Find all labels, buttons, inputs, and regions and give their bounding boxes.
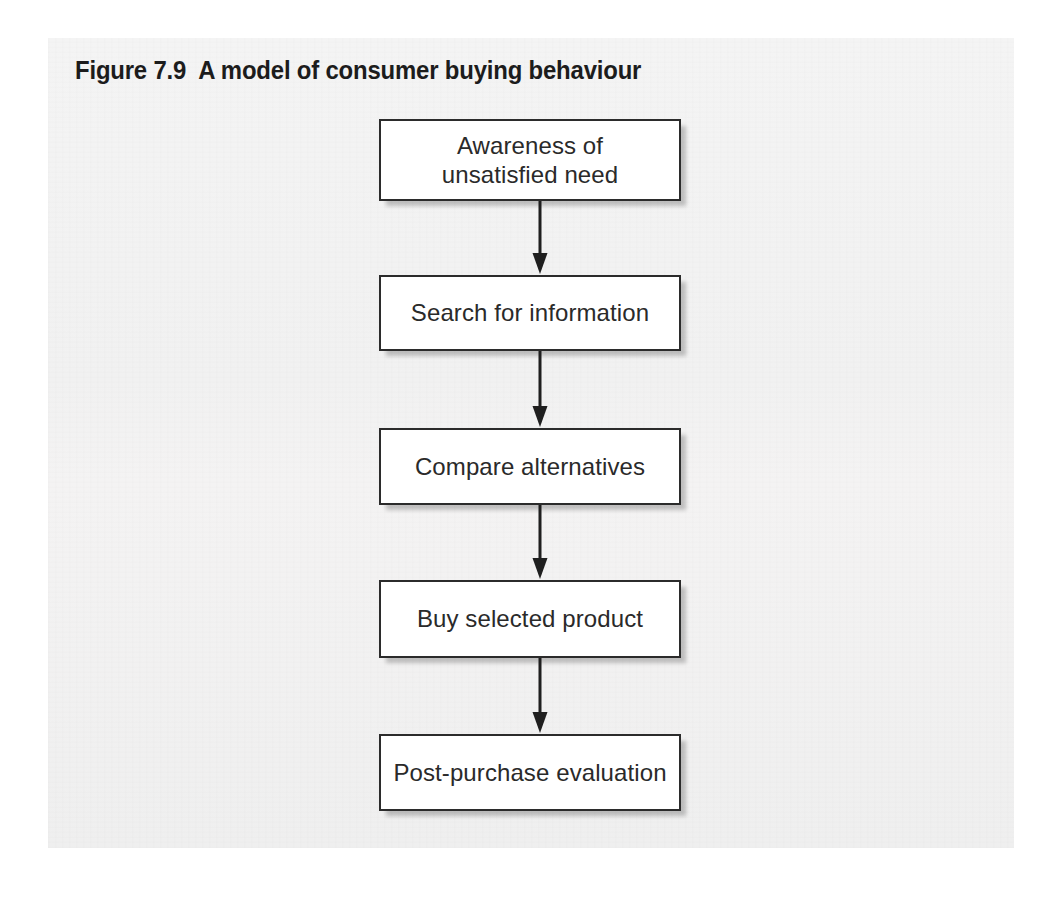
flow-node-compare[interactable]: Compare alternatives <box>379 428 681 505</box>
flow-node-buy[interactable]: Buy selected product <box>379 580 681 658</box>
flow-arrow-search-to-compare <box>526 351 554 428</box>
flow-node-label: Compare alternatives <box>407 452 653 481</box>
flow-node-label: Buy selected product <box>409 604 651 633</box>
flow-node-awareness[interactable]: Awareness of unsatisfied need <box>379 119 681 201</box>
flow-arrow-buy-to-post-purchase <box>526 658 554 734</box>
flow-arrow-awareness-to-search <box>526 201 554 275</box>
flow-node-label: Awareness of unsatisfied need <box>434 131 626 190</box>
flow-node-label: Post-purchase evaluation <box>385 758 674 787</box>
figure-title: Figure 7.9 A model of consumer buying be… <box>75 55 641 86</box>
flow-node-post-purchase[interactable]: Post-purchase evaluation <box>379 734 681 811</box>
flowchart: Awareness of unsatisfied need Search for… <box>48 38 1014 848</box>
flow-node-label: Search for information <box>403 298 657 327</box>
figure-panel: Figure 7.9 A model of consumer buying be… <box>48 38 1014 848</box>
flow-node-search[interactable]: Search for information <box>379 275 681 351</box>
page-canvas: Figure 7.9 A model of consumer buying be… <box>0 0 1062 898</box>
flow-arrow-compare-to-buy <box>526 505 554 580</box>
